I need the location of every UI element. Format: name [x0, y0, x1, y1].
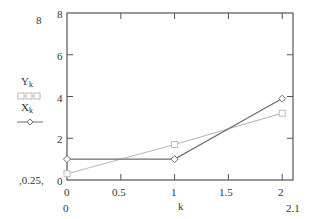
series-line — [67, 99, 282, 160]
x-tick-label: 2 — [278, 187, 284, 198]
square-marker-icon — [279, 110, 285, 116]
y-max-outer-label: 8 — [36, 15, 42, 26]
x-axis-title: k — [178, 201, 184, 212]
y-tick-label: 2 — [57, 134, 63, 145]
x-max-outer-label: 2.1 — [286, 203, 300, 214]
legend-x-marker-icon — [17, 118, 43, 126]
diamond-marker-icon — [64, 156, 71, 163]
y-tick-label: 8 — [57, 9, 63, 20]
legend-y-subscript: k — [29, 80, 33, 89]
legend-x-subscript: k — [29, 106, 33, 115]
legend-y-marker-icon — [17, 92, 41, 100]
plot-series — [64, 95, 286, 177]
square-marker-icon — [64, 171, 70, 177]
square-marker-icon — [172, 142, 178, 148]
y-tick-label: 6 — [57, 51, 63, 62]
legend-x-label: Xk — [21, 102, 47, 116]
y-tick-label: 0 — [57, 176, 63, 187]
chart-plot — [0, 0, 315, 219]
y-min-value: 0.25 — [22, 174, 41, 186]
x-min-outer-label: 0 — [63, 203, 69, 214]
x-tick-label: 1.5 — [219, 187, 233, 198]
diamond-marker-icon — [279, 95, 286, 102]
y-tick-label: 4 — [57, 93, 63, 104]
y-min-outer-label: ,0.25, — [19, 175, 44, 186]
x-tick-label: 1 — [171, 187, 177, 198]
plot-frame — [67, 13, 293, 180]
legend: Yk Xk — [17, 76, 43, 120]
plot-border — [67, 13, 293, 180]
legend-y-label: Yk — [21, 76, 47, 90]
legend-y-text: Y — [21, 75, 29, 87]
x-tick-label: 0 — [64, 187, 70, 198]
legend-x-text: X — [21, 101, 29, 113]
diamond-marker-icon — [171, 156, 178, 163]
x-tick-label: 0.5 — [112, 187, 126, 198]
